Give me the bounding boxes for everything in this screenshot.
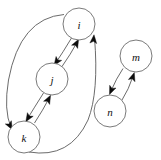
- node-label: n: [107, 106, 113, 118]
- node-label: i: [77, 19, 80, 31]
- graph-edge: [56, 38, 72, 63]
- edge-arrowhead: [128, 71, 137, 81]
- graph-node-i[interactable]: i: [63, 8, 95, 40]
- edge-arrowhead: [106, 85, 116, 95]
- graph-node-m[interactable]: m: [120, 40, 152, 72]
- graph-node-j[interactable]: j: [36, 63, 68, 95]
- edge-arrowhead: [90, 35, 98, 44]
- nodes-layer: ijkmn: [8, 8, 152, 153]
- graph-node-n[interactable]: n: [94, 95, 126, 127]
- directed-graph-figure: ijkmn: [0, 0, 161, 160]
- graph-edge: [27, 93, 44, 120]
- node-label: m: [132, 51, 140, 63]
- graph-node-k[interactable]: k: [8, 121, 40, 153]
- graph-canvas: ijkmn: [0, 0, 161, 160]
